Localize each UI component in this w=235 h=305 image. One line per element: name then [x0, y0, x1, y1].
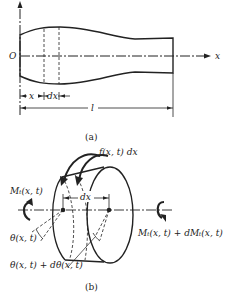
vertical-axis-arrow-icon — [18, 1, 23, 8]
caption-b: (b) — [85, 282, 98, 292]
dim-dx-label: dx — [47, 91, 58, 101]
x-axis-label: x — [215, 51, 220, 61]
left-hidden-edge — [62, 177, 74, 258]
horizontal-axis-arrow-icon — [204, 54, 211, 59]
distributed-torque-label: f(x, t) dx — [98, 147, 137, 157]
right-moment-label: Mₜ(x, t) + dMₜ(x, t) — [137, 228, 223, 238]
torque-arrow-1-icon — [64, 154, 100, 180]
right-twist-label: θ(x, t) + dθ(x, t) — [10, 260, 83, 270]
left-face — [53, 177, 65, 260]
dim-x-label: x — [29, 91, 34, 101]
left-moment-arrow-icon — [24, 202, 30, 220]
left-twist-ray — [32, 210, 63, 232]
left-twist-label: θ(x, t) — [10, 233, 37, 243]
origin-label: O — [9, 51, 17, 61]
right-face — [87, 167, 133, 263]
figure-a: O x x dx l (a) — [9, 1, 220, 142]
element-dx-label: dx — [80, 192, 91, 202]
left-moment-label: Mₜ(x, t) — [9, 186, 43, 196]
length-label: l — [91, 103, 94, 113]
torsion-diagram: O x x dx l (a) dx — [0, 0, 235, 305]
caption-a: (a) — [85, 132, 97, 142]
figure-b: dx f(x, t) dx Mₜ(x, t) Mₜ(x, t) + dMₜ(x,… — [9, 147, 223, 292]
